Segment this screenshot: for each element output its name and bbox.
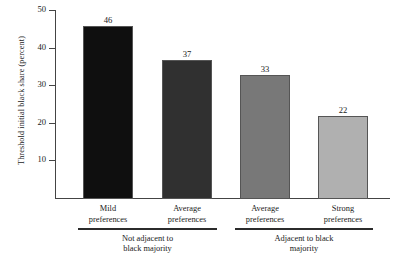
- category-label-line2: preferences: [299, 215, 387, 226]
- bar-average-preferences-not-adjacent: 37: [162, 60, 212, 199]
- category-label-line2: preferences: [221, 215, 309, 226]
- y-tick-label-40: 40: [37, 42, 46, 52]
- group-adjacent-to-black-majority: Adjacent to black majority: [235, 228, 373, 255]
- group-label: Not adjacent to black majority: [78, 234, 217, 255]
- y-tick-label-30: 30: [37, 79, 46, 89]
- y-tick-label-20: 20: [37, 117, 46, 127]
- category-label-2: Average preferences: [221, 204, 309, 225]
- group-label: Adjacent to black majority: [235, 234, 373, 255]
- y-tick-40: 40: [49, 48, 55, 49]
- group-not-adjacent-to-black-majority: Not adjacent to black majority: [78, 228, 217, 255]
- bar-value-label: 46: [104, 15, 113, 25]
- bar-average-preferences-adjacent: 33: [240, 75, 290, 199]
- category-label-line1: Mild: [64, 204, 152, 215]
- plot-area: 50 40 30 20 10 46 37 33 22: [55, 10, 390, 199]
- category-label-line1: Strong: [299, 204, 387, 215]
- y-tick-50: 50: [49, 10, 55, 11]
- bar-value-label: 33: [261, 64, 270, 74]
- y-tick-30: 30: [49, 85, 55, 86]
- y-tick-10: 10: [49, 160, 55, 161]
- group-label-line1: Not adjacent to: [78, 234, 217, 245]
- y-tick-label-10: 10: [37, 154, 46, 164]
- category-label-line1: Average: [143, 204, 231, 215]
- category-label-1: Average preferences: [143, 204, 231, 225]
- group-rule: [78, 228, 217, 230]
- group-label-line2: black majority: [78, 244, 217, 255]
- y-axis-title: Threshold initial black share (percent): [17, 6, 26, 196]
- y-axis-line: [55, 10, 56, 199]
- group-label-line1: Adjacent to black: [235, 234, 373, 245]
- category-label-line1: Average: [221, 204, 309, 215]
- group-label-line2: majority: [235, 244, 373, 255]
- bar-value-label: 37: [183, 49, 192, 59]
- bar-strong-preferences-adjacent: 22: [318, 116, 368, 199]
- bar-mild-preferences-not-adjacent: 46: [83, 26, 133, 199]
- bar-value-label: 22: [339, 105, 348, 115]
- category-label-line2: preferences: [143, 215, 231, 226]
- group-rule: [235, 228, 373, 230]
- y-tick-label-50: 50: [37, 4, 46, 14]
- category-label-3: Strong preferences: [299, 204, 387, 225]
- category-label-line2: preferences: [64, 215, 152, 226]
- bar-chart-figure: Threshold initial black share (percent) …: [0, 0, 403, 272]
- y-tick-20: 20: [49, 123, 55, 124]
- category-label-0: Mild preferences: [64, 204, 152, 225]
